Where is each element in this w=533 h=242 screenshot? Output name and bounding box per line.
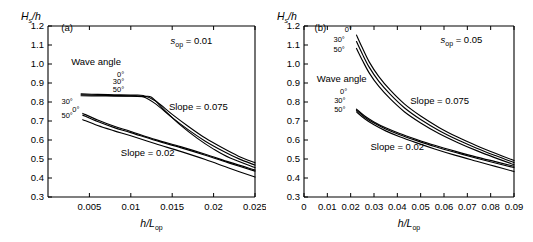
y-tick-label: 0.6 [287,134,300,145]
x-tick-label: 0.03 [365,201,384,212]
angle-labels-upper: 0°30°50° [113,70,124,93]
y-tick-label: 0.5 [31,153,44,164]
y-tick-label: 0.7 [31,115,44,126]
panel-label: (a) [61,22,73,33]
slope-002-label: Slope = 0.02 [371,141,425,152]
x-tick-label: 0.08 [481,201,500,212]
sop-annotation: sop = 0.01 [171,35,213,49]
angle-label: 0° [72,105,79,114]
angle-label: 0° [345,25,352,34]
angle-label: 50° [334,105,345,114]
y-tick-label: 0.5 [287,153,300,164]
x-axis-ticks: 0.0050.010.0150.020.025 [78,26,266,212]
y-tick-label: 0.7 [287,115,300,126]
angle-label: 50° [61,111,72,120]
x-tick-label: 0.09 [505,201,524,212]
x-tick-label: 0.06 [435,201,454,212]
y-tick-label: 0.3 [287,191,300,202]
x-tick-label: 0.02 [204,201,223,212]
angle-label: 50° [333,45,344,54]
figure-container: 0.30.40.50.60.70.80.91.01.11.20.0050.010… [0,0,533,242]
y-axis-ticks: 0.30.40.50.60.70.80.91.01.11.2 [31,20,52,202]
angle-label: 30° [61,97,72,106]
y-tick-label: 1.0 [287,58,300,69]
angle-label: 30° [333,35,344,44]
y-axis-title: Hs/h [277,10,297,24]
angle-labels-lower: 30°0°50° [61,97,79,120]
angle-label: 50° [113,85,124,94]
plot-svg-panel-b: 0.30.40.50.60.70.80.91.01.11.200.010.020… [266,0,533,242]
x-tick-label: 0.02 [341,201,360,212]
plot-svg-panel-a: 0.30.40.50.60.70.80.91.01.11.20.0050.010… [0,0,266,242]
slope-0075-label: Slope = 0.075 [410,95,469,106]
y-tick-label: 0.8 [31,96,44,107]
y-tick-label: 0.4 [31,172,44,183]
x-tick-label: 0.04 [388,201,407,212]
y-tick-label: 0.6 [31,134,44,145]
slope-0075-label: Slope = 0.075 [169,101,228,112]
angle-labels-lower: 0°30°50° [334,87,347,114]
y-tick-label: 0.4 [287,172,300,183]
y-tick-label: 1.1 [287,39,300,50]
wave-angle-label: Wave angle [317,73,367,84]
angle-labels-upper: 0°30°50° [333,25,351,55]
sop-annotation: sop = 0.05 [441,34,483,48]
x-axis-title: h/Lop [398,217,421,232]
slope-002-label: Slope = 0.02 [121,147,175,158]
y-tick-label: 1.2 [31,20,44,31]
chart-panel-b: 0.30.40.50.60.70.80.91.01.11.200.010.020… [266,0,533,242]
x-tick-label: 0.025 [243,201,266,212]
angle-label: 0° [340,87,347,96]
y-tick-label: 1.1 [31,39,44,50]
x-tick-label: 0.005 [78,201,102,212]
y-axis-title: Hs/h [21,10,41,24]
x-tick-label: 0.05 [411,201,430,212]
x-tick-label: 0 [301,201,306,212]
x-tick-label: 0.01 [318,201,337,212]
angle-label: 30° [334,96,345,105]
y-tick-label: 1.2 [287,20,300,31]
panel-label: (b) [315,22,327,33]
x-tick-label: 0.07 [458,201,477,212]
data-curve [357,110,515,167]
x-tick-label: 0.015 [160,201,184,212]
y-axis-ticks: 0.30.40.50.60.70.80.91.01.11.2 [287,20,308,202]
x-tick-label: 0.01 [122,201,141,212]
y-tick-label: 1.0 [31,58,44,69]
y-tick-label: 0.3 [31,191,44,202]
y-tick-label: 0.9 [31,77,44,88]
wave-angle-label: Wave angle [71,56,121,67]
chart-panel-a: 0.30.40.50.60.70.80.91.01.11.20.0050.010… [0,0,266,242]
data-curve [357,109,515,166]
x-axis-title: h/Lop [140,217,163,232]
y-tick-label: 0.9 [287,77,300,88]
data-curve [83,113,255,170]
y-tick-label: 0.8 [287,96,300,107]
